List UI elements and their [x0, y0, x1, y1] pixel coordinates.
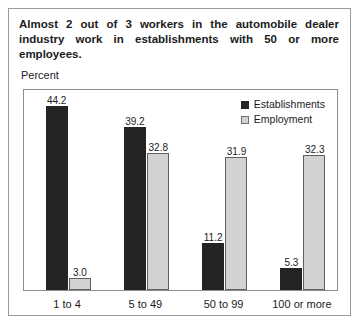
x-label-2: 5 to 49	[111, 297, 180, 311]
x-axis-category-labels: 1 to 45 to 4950 to 99100 or more	[23, 297, 338, 313]
x-label-1: 1 to 4	[33, 297, 102, 311]
bar-value-label: 5.3	[284, 257, 298, 268]
x-label-3: 50 to 99	[189, 297, 258, 311]
bar-group-container: 44.23.039.232.811.231.95.332.3	[24, 90, 337, 290]
y-axis-caption: Percent	[21, 69, 59, 82]
bar-group-3: 11.231.9	[202, 90, 247, 290]
bar-value-label: 31.9	[227, 146, 246, 157]
bar-group-1: 44.23.0	[46, 90, 91, 290]
figure-panel: Almost 2 out of 3 workers in the automob…	[8, 8, 351, 316]
bar-value-label: 32.3	[305, 144, 324, 155]
bar-value-label: 32.8	[149, 142, 168, 153]
bar-group-4: 5.332.3	[280, 90, 325, 290]
bar-employment-4[interactable]: 32.3	[303, 155, 325, 290]
figure-title: Almost 2 out of 3 workers in the automob…	[19, 17, 339, 77]
bar-establishments-3[interactable]: 11.2	[202, 243, 224, 290]
bar-value-label: 39.2	[125, 116, 144, 127]
plot-area: Establishments Employment 44.23.039.232.…	[23, 89, 338, 291]
x-label-4: 100 or more	[267, 297, 336, 311]
bar-employment-3[interactable]: 31.9	[225, 157, 247, 290]
bar-value-label: 11.2	[204, 232, 223, 243]
bar-value-label: 3.0	[73, 267, 87, 278]
bar-value-label: 44.2	[47, 95, 66, 106]
bar-establishments-4[interactable]: 5.3	[280, 268, 302, 290]
bar-establishments-1[interactable]: 44.2	[46, 106, 68, 290]
bar-employment-2[interactable]: 32.8	[147, 153, 169, 290]
bar-establishments-2[interactable]: 39.2	[124, 127, 146, 290]
bar-employment-1[interactable]: 3.0	[69, 278, 91, 291]
bar-group-2: 39.232.8	[124, 90, 169, 290]
